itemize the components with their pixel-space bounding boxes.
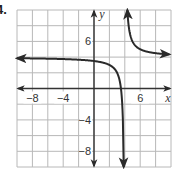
- axes: [18, 11, 170, 166]
- x-tick-label: −4: [57, 92, 70, 104]
- y-tick-label: 6: [85, 35, 91, 47]
- right-branch-curve: [127, 10, 169, 54]
- x-tick-label: 6: [137, 92, 143, 104]
- y-axis-label: y: [98, 7, 105, 21]
- x-tick-label: −8: [26, 92, 39, 104]
- tick-labels: −8−466−4−8xy: [23, 7, 171, 157]
- y-tick-label: −4: [78, 114, 91, 126]
- x-axis-label: x: [164, 91, 171, 105]
- left-branch-curve: [17, 58, 124, 167]
- y-tick-label: −8: [78, 145, 91, 157]
- rational-function-graph: −8−466−4−8xy: [0, 0, 179, 183]
